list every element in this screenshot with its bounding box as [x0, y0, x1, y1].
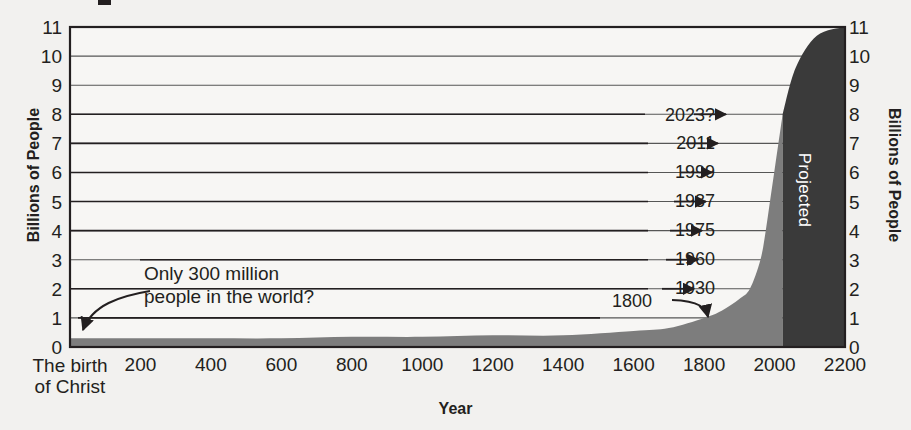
x-axis-tick-1000: 1000 — [401, 355, 443, 375]
y-axis-tick-4: 4 — [28, 222, 62, 241]
callout-1930: 1930 — [655, 279, 715, 297]
y-axis-tick-10: 10 — [28, 47, 62, 66]
x-axis-tick-1200: 1200 — [472, 355, 514, 375]
annotation-300-million-line2: people in the world? — [144, 285, 314, 308]
callout-1975: 1975 — [655, 221, 715, 239]
y-axis-tick-10: 10 — [849, 47, 889, 66]
y-axis-tick-6: 6 — [28, 163, 62, 182]
x-axis-origin-label-line2: of Christ — [33, 376, 108, 397]
callout-2011: 2011 — [655, 134, 715, 152]
x-axis-tick-2000: 2000 — [753, 355, 795, 375]
y-axis-tick-2: 2 — [28, 280, 62, 299]
x-axis-tick-200: 200 — [125, 355, 157, 375]
x-axis-tick-1800: 1800 — [683, 355, 725, 375]
y-axis-tick-6: 6 — [849, 163, 889, 182]
callout-1800: 1800 — [612, 292, 652, 310]
y-axis-tick-11: 11 — [849, 18, 889, 37]
y-axis-tick-3: 3 — [849, 251, 889, 270]
y-axis-tick-9: 9 — [849, 76, 889, 95]
x-axis-origin-label-line1: The birth — [33, 355, 108, 376]
projected-region-label: Projected — [794, 130, 814, 250]
x-axis-tick-2200: 2200 — [824, 355, 866, 375]
x-axis-tick-600: 600 — [266, 355, 298, 375]
x-axis-tick-1400: 1400 — [542, 355, 584, 375]
x-axis-tick-1600: 1600 — [612, 355, 654, 375]
callout-1999: 1999 — [655, 163, 715, 181]
y-axis-tick-8: 8 — [849, 105, 889, 124]
callout-1987: 1987 — [655, 192, 715, 210]
y-axis-tick-5: 5 — [849, 193, 889, 212]
y-axis-tick-1: 1 — [28, 309, 62, 328]
callout-1960: 1960 — [655, 250, 715, 268]
y-axis-tick-4: 4 — [849, 222, 889, 241]
y-axis-tick-7: 7 — [28, 134, 62, 153]
y-axis-tick-1: 1 — [849, 309, 889, 328]
annotation-300-million-line1: Only 300 million — [144, 262, 279, 285]
y-axis-tick-5: 5 — [28, 193, 62, 212]
y-axis-tick-11: 11 — [28, 18, 62, 37]
x-axis-origin-label: The birth of Christ — [33, 355, 108, 397]
y-axis-tick-9: 9 — [28, 76, 62, 95]
x-axis-tick-800: 800 — [336, 355, 368, 375]
y-axis-tick-8: 8 — [28, 105, 62, 124]
y-axis-tick-3: 3 — [28, 251, 62, 270]
y-axis-tick-2: 2 — [849, 280, 889, 299]
x-axis-tick-400: 400 — [195, 355, 227, 375]
chart-canvas: Billions of People Billions of People Ye… — [0, 0, 911, 430]
y-axis-tick-7: 7 — [849, 134, 889, 153]
callout-2023: 2023? — [648, 106, 715, 124]
